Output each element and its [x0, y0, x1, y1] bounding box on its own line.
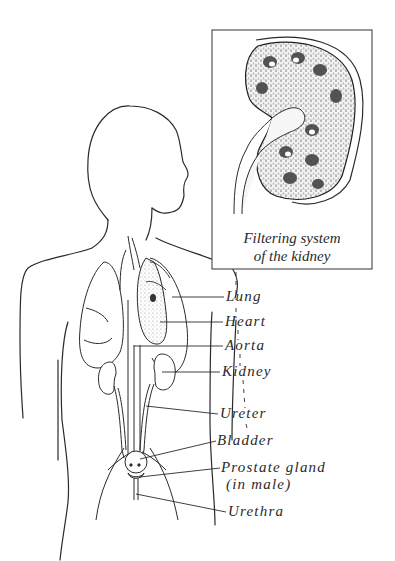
label-prostate-note: (in male)	[226, 477, 291, 492]
label-urethra: Urethra	[228, 504, 284, 519]
heart	[137, 258, 170, 344]
label-bladder: Bladder	[217, 433, 274, 448]
anatomy-diagram	[0, 0, 395, 561]
label-kidney: Kidney	[222, 364, 272, 379]
inset-caption-line1: Filtering system	[213, 229, 371, 247]
ureter-right	[142, 384, 154, 458]
urethra-shape	[134, 478, 138, 500]
head-outline	[88, 106, 188, 220]
inset-caption-line2: of the kidney	[213, 247, 371, 265]
kidneys	[98, 354, 175, 394]
label-heart: Heart	[225, 314, 266, 329]
label-aorta: Aorta	[225, 338, 265, 353]
left-shoulder	[20, 220, 108, 418]
label-ureter: Ureter	[220, 406, 267, 421]
ureter-left	[114, 386, 124, 458]
label-lung: Lung	[226, 289, 262, 304]
prostate-shape	[128, 473, 144, 478]
bladder-shape	[125, 451, 147, 473]
body-outline	[20, 106, 238, 560]
label-prostate-gland: Prostate gland	[221, 460, 326, 475]
aorta	[120, 236, 140, 470]
kidney-left	[98, 362, 116, 394]
